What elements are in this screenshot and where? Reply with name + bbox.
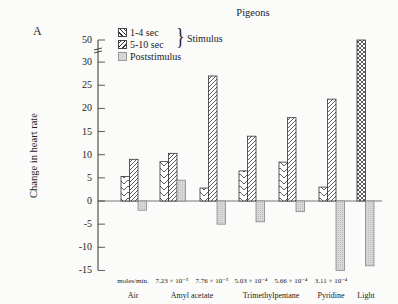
bar-1-4-sec [239,171,248,201]
y-tick-label: -5 [62,218,92,229]
bar-5-10-sec [209,76,218,201]
x-group-label: Light [326,291,398,300]
bar-poststimulus [217,201,226,224]
y-tick-label: -10 [62,241,92,252]
stipple-swatch-icon [118,52,127,61]
bar-1-4-sec [160,162,169,201]
bar-5-10-sec [130,159,139,201]
bar-1-4-sec [200,188,209,201]
y-tick-label: 5 [62,172,92,183]
bar-poststimulus [256,201,265,222]
x-group-label: Amyl acetate [152,291,232,300]
bar-poststimulus [366,201,375,266]
y-tick-label: 20 [62,102,92,113]
bar-5-10-sec [248,136,257,201]
backslash-hatch-swatch-icon [118,28,127,37]
bar-5-10-sec [169,153,178,201]
bar-poststimulus [296,201,305,212]
bar-poststimulus [336,201,345,270]
bar-5-10-sec [288,118,297,201]
y-tick-label: -15 [62,264,92,275]
slash-hatch-swatch-icon [118,40,127,49]
legend-item-5-10-sec: 5-10 sec [118,39,181,50]
bar-1-4-sec [279,162,288,201]
legend: 1-4 sec 5-10 sec Poststimulus [118,27,181,62]
bar-light-stimulus [357,40,366,201]
legend-item-1-4-sec: 1-4 sec [118,27,181,38]
y-tick-label: 30 [62,56,92,67]
bar-1-4-sec [319,187,328,201]
plot-area [0,0,398,304]
bars [121,40,374,270]
x-concentration-label: 3.11 × 10⁻⁴ [306,277,356,285]
bar-poststimulus [177,180,186,201]
y-tick-label: 15 [62,126,92,137]
bar-poststimulus [138,201,147,210]
legend-brace-icon: } [176,24,185,47]
y-tick-label: 25 [62,79,92,90]
y-tick-label: 0 [62,195,92,206]
bar-1-4-sec [121,176,130,201]
y-tick-label: 50 [62,34,92,45]
legend-item-poststimulus: Poststimulus [118,51,181,62]
legend-group-label: Stimulus [187,33,223,44]
y-tick-label: 10 [62,149,92,160]
bar-5-10-sec [328,99,337,201]
